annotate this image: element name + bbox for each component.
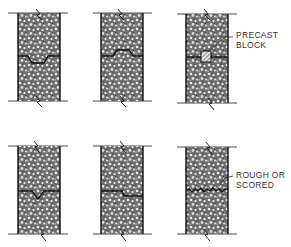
rough-scored-label: ROUGH OR SCORED — [236, 170, 285, 190]
panel-rough-scored — [177, 142, 237, 241]
precast-block-label: PRECAST BLOCK — [236, 30, 278, 50]
panel-v-notch — [8, 141, 68, 241]
panel-stepped — [93, 141, 152, 241]
label-line: PRECAST — [236, 30, 278, 40]
panel-recessed-key — [8, 9, 68, 107]
label-line: SCORED — [236, 180, 285, 190]
panel-precast-block — [177, 9, 237, 110]
label-line: ROUGH OR — [236, 170, 285, 180]
label-line: BLOCK — [236, 40, 278, 50]
panel-raised-key — [93, 9, 152, 107]
precast-block-icon — [201, 51, 211, 62]
